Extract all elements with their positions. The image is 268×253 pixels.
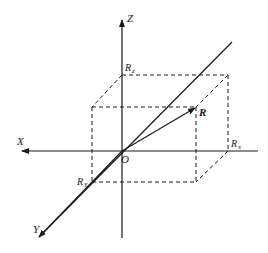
top-right-diagonal bbox=[196, 75, 228, 107]
svg-text:z: z bbox=[131, 67, 135, 75]
y-axis bbox=[39, 151, 122, 237]
top-left-diagonal bbox=[92, 75, 122, 107]
y-axis-label: Y bbox=[33, 223, 41, 235]
bottom-right-diagonal bbox=[196, 151, 228, 182]
svg-text:x: x bbox=[237, 143, 242, 151]
vector-r bbox=[122, 108, 195, 151]
x-axis-label: X bbox=[16, 135, 25, 147]
svg-text:R: R bbox=[124, 62, 131, 73]
rz-label: R z bbox=[124, 62, 135, 75]
vector-r-label: R bbox=[198, 106, 206, 118]
svg-text:R: R bbox=[76, 176, 83, 187]
coordinate-diagram: Z X Y O R R z R x R Y bbox=[0, 0, 268, 253]
ry-label: R Y bbox=[76, 176, 88, 188]
z-axis-label: Z bbox=[127, 12, 134, 24]
origin-label: O bbox=[121, 153, 129, 165]
rx-label: R x bbox=[230, 138, 242, 151]
svg-text:R: R bbox=[230, 138, 237, 149]
